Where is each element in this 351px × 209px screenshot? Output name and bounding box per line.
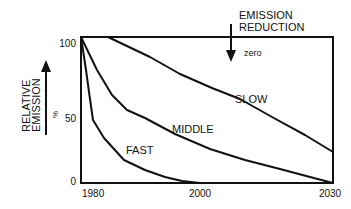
emission-reduction-arrow-head [226, 50, 236, 62]
y-axis-unit: % [51, 111, 60, 118]
emission-chart: EMISSION REDUCTION zero SLOW MIDDLE FAST… [0, 0, 351, 209]
middle-label: MIDDLE [172, 123, 214, 135]
curve-slow [108, 37, 333, 152]
emission-reduction-label-line2: REDUCTION [239, 21, 304, 33]
y-axis-arrow-head [41, 60, 51, 72]
y-tick-100: 100 [59, 38, 76, 49]
zero-label: zero [244, 48, 262, 58]
slow-label: SLOW [235, 93, 268, 105]
x-tick-2000: 2000 [189, 188, 212, 199]
curve-fast [81, 37, 200, 183]
emission-reduction-label-line1: EMISSION [239, 9, 293, 21]
y-tick-50: 50 [65, 113, 77, 124]
x-tick-1980: 1980 [82, 188, 105, 199]
plot-frame [81, 37, 333, 183]
y-axis-title-line2: EMISSION [30, 78, 42, 132]
curve-middle [81, 37, 333, 183]
fast-label: FAST [126, 144, 154, 156]
y-tick-0: 0 [70, 176, 76, 187]
x-tick-2030: 2030 [319, 188, 342, 199]
